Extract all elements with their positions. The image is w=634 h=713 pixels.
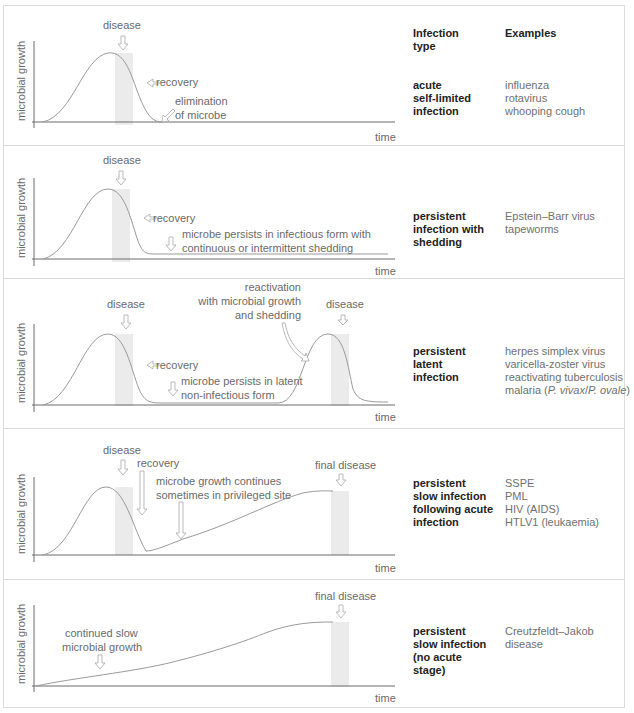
panel-persistent-slow-no-acute: microbial growth time continued slow mic… xyxy=(3,579,625,708)
elimination-label-2: of microbe xyxy=(175,109,226,121)
arrow-curved-icon xyxy=(282,323,309,361)
panel-acute-self-limited: microbial growth time disease recovery e… xyxy=(3,5,625,145)
arrow-down-icon xyxy=(338,315,348,325)
disease-label: disease xyxy=(107,298,145,310)
latent-label-2: non-infectious form xyxy=(181,389,275,401)
header-examples: Examples xyxy=(505,27,634,40)
final-disease-label: final disease xyxy=(315,459,376,471)
persist-label-2: continuous or intermittent shedding xyxy=(182,242,353,254)
example-item: varicella-zoster virus xyxy=(505,358,634,371)
elimination-label-1: elimination xyxy=(175,95,228,107)
arrow-down-icon xyxy=(176,502,186,539)
disease-label: disease xyxy=(103,154,141,166)
panel-persistent-shedding: microbial growth time disease recovery m… xyxy=(3,145,625,278)
example-item: herpes simplex virus xyxy=(505,345,634,358)
arrow-diag-icon xyxy=(162,109,175,122)
slow-growth-label-2: microbial growth xyxy=(62,641,142,653)
x-axis-label: time xyxy=(375,692,396,704)
arrow-down-icon xyxy=(336,474,346,486)
y-axis-label: microbial growth xyxy=(15,41,27,121)
examples-list: Epstein–Barr virus tapeworms xyxy=(505,210,634,236)
examples-list: influenza rotavirus whooping cough xyxy=(505,79,634,118)
example-item: reactivating tuberculosis xyxy=(505,371,634,384)
arrow-down-icon xyxy=(137,471,147,515)
recovery-label: recovery xyxy=(156,76,199,88)
example-item: malaria (P. vivax/P. ovale) xyxy=(505,384,634,397)
slow-growth-label-1: continued slow xyxy=(65,627,138,639)
arrow-down-icon xyxy=(168,382,178,396)
examples-list: SSPE PML HIV (AIDS) HTLV1 (leukaemia) xyxy=(505,477,634,529)
arrow-down-icon xyxy=(116,171,126,185)
disease-label: disease xyxy=(103,444,141,456)
panel-persistent-latent: microbial growth time disease recovery m… xyxy=(3,278,625,428)
y-axis-label: microbial growth xyxy=(15,323,27,403)
x-axis-label: time xyxy=(375,562,396,574)
disease-label-2: disease xyxy=(326,298,364,310)
examples-list: Creutzfeldt–Jakob disease xyxy=(505,625,634,651)
continues-label-1: microbe growth continues xyxy=(156,475,282,487)
reactivation-label-2: with microbial growth xyxy=(197,295,301,307)
arrow-down-icon xyxy=(118,460,128,475)
x-axis-label: time xyxy=(375,131,396,143)
disease-label: disease xyxy=(103,19,141,31)
arrow-down-icon xyxy=(166,237,176,251)
examples-list: herpes simplex virus varicella-zoster vi… xyxy=(505,345,634,397)
persist-label-1: microbe persists in infectious form with xyxy=(182,228,371,240)
arrow-down-icon xyxy=(121,315,131,329)
arrow-down-icon xyxy=(118,36,128,50)
panel-persistent-slow-following-acute: microbial growth time disease recovery m… xyxy=(3,428,625,579)
y-axis-label: microbial growth xyxy=(15,474,27,554)
final-disease-label: final disease xyxy=(315,590,376,602)
recovery-label: recovery xyxy=(156,359,199,371)
x-axis-label: time xyxy=(375,411,396,423)
latent-label-1: microbe persists in latent xyxy=(181,375,303,387)
recovery-label: recovery xyxy=(153,212,196,224)
x-axis-label: time xyxy=(375,265,396,277)
reactivation-label-1: reactivation xyxy=(245,281,301,293)
recovery-label: recovery xyxy=(137,457,180,469)
growth-curve-chart: microbial growth time disease recovery e… xyxy=(3,5,625,145)
continues-label-2: sometimes in privileged site xyxy=(156,489,291,501)
reactivation-label-3: and shedding xyxy=(235,309,301,321)
arrow-down-icon xyxy=(336,605,346,618)
arrow-down-icon xyxy=(95,655,105,669)
y-axis-label: microbial growth xyxy=(15,178,27,258)
y-axis-label: microbial growth xyxy=(15,604,27,684)
